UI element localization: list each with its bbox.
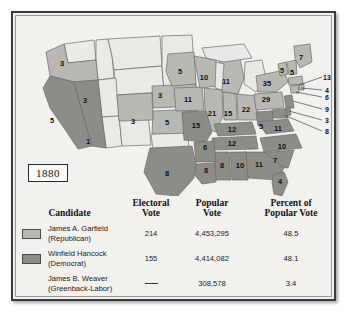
state-WI-shape — [194, 56, 218, 88]
header-popular-line1: Popular — [196, 198, 229, 208]
callout-votes-DE: 3 — [325, 117, 329, 124]
state-votes-SC: 7 — [273, 157, 277, 165]
state-votes-AL: 10 — [236, 162, 244, 170]
state-votes-WI: 10 — [200, 74, 208, 82]
candidate-party: (Republican) — [48, 234, 121, 243]
state-MT — [108, 36, 162, 70]
state-votes-IA: 11 — [184, 96, 192, 104]
state-CO-shape — [117, 93, 153, 121]
header-popular-vote: Popular Vote — [179, 198, 245, 221]
leader-line-DE — [289, 111, 322, 120]
state-votes-NV: 3 — [83, 97, 87, 105]
callout-votes-CT: 6 — [325, 94, 329, 101]
state-votes-NC: 10 — [278, 143, 286, 151]
state-votes-OH: 22 — [242, 106, 250, 114]
table-body: James A. Garfield(Republican)2144,453,29… — [16, 221, 337, 296]
results-table: Candidate Electoral Vote Popular Vote Pe… — [16, 198, 337, 296]
state-votes-CA: 5 — [50, 117, 54, 125]
state-votes-OR: 3 — [60, 60, 64, 68]
no-electoral-vote-dash — [145, 283, 158, 284]
state-votes-IN: 15 — [224, 110, 232, 118]
candidate-cell: Winfield Hancock(Democrat) — [48, 246, 123, 271]
state-votes-TN: 12 — [228, 140, 236, 148]
state-votes-PA: 29 — [262, 96, 270, 104]
header-electoral-vote: Electoral Vote — [123, 198, 179, 221]
callout-votes-MA: 13 — [323, 74, 331, 81]
state-votes-TX: 8 — [165, 170, 169, 178]
legend-swatch — [22, 254, 41, 264]
header-percent-popular-vote: Percent of Popular Vote — [245, 198, 337, 221]
state-votes-MI: 11 — [222, 78, 230, 86]
callout-votes-RI: 4 — [325, 87, 329, 94]
header-percent-line1: Percent of — [270, 198, 311, 208]
state-votes-NE: 3 — [158, 92, 162, 100]
state-votes-IL: 21 — [208, 110, 216, 118]
state-MD-shape — [272, 109, 288, 118]
state-votes-GA: 11 — [255, 161, 263, 169]
figure-inner-border: 3351335511151021111522121251110711108688… — [15, 15, 332, 297]
state-votes-KS: 5 — [165, 119, 169, 127]
legend-swatch-cell — [16, 246, 48, 271]
state-votes-WV: 5 — [259, 123, 263, 131]
state-votes-NY: 35 — [263, 80, 271, 88]
electoral-vote-cell: 214 — [123, 221, 179, 246]
state-votes-ME: 7 — [299, 54, 303, 62]
candidate-cell: James A. Garfield(Republican) — [48, 221, 123, 246]
results-table-container: Candidate Electoral Vote Popular Vote Pe… — [16, 198, 337, 302]
candidate-name: James A. Garfield — [48, 224, 121, 233]
candidate-party: (Greenback-Labor) — [48, 284, 121, 293]
state-votes-MN: 5 — [178, 68, 182, 76]
state-WA — [64, 40, 96, 63]
popular-vote-cell: 4,453,295 — [179, 221, 245, 246]
header-candidate: Candidate — [16, 198, 123, 221]
state-votes-MS: 8 — [220, 162, 224, 170]
electoral-vote-cell: 155 — [123, 246, 179, 271]
percent-popular-vote-cell: 3.4 — [245, 271, 337, 296]
state-votes-CA-1: 1 — [86, 138, 90, 146]
table-row: Winfield Hancock(Democrat)1554,414,08248… — [16, 246, 337, 271]
legend-swatch-cell — [16, 271, 48, 296]
candidate-name: James B. Weaver — [48, 274, 121, 283]
leader-line-CT — [296, 92, 322, 97]
candidate-cell: James B. Weaver(Greenback-Labor) — [48, 271, 123, 296]
legend-swatch-cell — [16, 221, 48, 246]
legend-swatch — [22, 229, 41, 239]
state-votes-AR: 6 — [203, 144, 207, 152]
state-votes-LA: 8 — [204, 167, 208, 175]
state-CT-shape — [290, 85, 299, 93]
header-percent-line2: Popular Vote — [265, 208, 318, 218]
table-row: James B. Weaver(Greenback-Labor)308,5783… — [16, 271, 337, 296]
leader-line-NJ — [293, 101, 322, 109]
candidate-party: (Democrat) — [48, 259, 121, 268]
table-header-row: Candidate Electoral Vote Popular Vote Pe… — [16, 198, 337, 221]
state-votes-FL: 4 — [278, 178, 282, 186]
figure-frame: 3351335511151021111522121251110711108688… — [11, 11, 336, 301]
table-row: James A. Garfield(Republican)2144,453,29… — [16, 221, 337, 246]
state-votes-KY: 12 — [228, 126, 236, 134]
callout-votes-NJ: 9 — [325, 106, 329, 113]
state-MA-shape — [288, 76, 303, 85]
header-popular-line2: Vote — [203, 208, 221, 218]
year-badge: 1880 — [28, 164, 68, 182]
header-electoral-line1: Electoral — [133, 198, 170, 208]
percent-popular-vote-cell: 48.1 — [245, 246, 337, 271]
popular-vote-cell: 308,578 — [179, 271, 245, 296]
state-votes-NH: 5 — [290, 69, 294, 77]
state-votes-VT: 5 — [280, 67, 284, 75]
state-votes-VA: 11 — [274, 125, 282, 133]
header-electoral-line2: Vote — [142, 208, 160, 218]
candidate-name: Winfield Hancock — [48, 249, 121, 258]
callout-votes-MD: 8 — [325, 128, 329, 135]
percent-popular-vote-cell: 48.5 — [245, 221, 337, 246]
popular-vote-cell: 4,414,082 — [179, 246, 245, 271]
state-TX-shape — [144, 146, 196, 196]
electoral-vote-cell — [123, 271, 179, 296]
state-votes-CO: 3 — [131, 118, 135, 126]
state-votes-MO: 15 — [192, 122, 200, 130]
state-NJ-shape — [284, 95, 294, 108]
